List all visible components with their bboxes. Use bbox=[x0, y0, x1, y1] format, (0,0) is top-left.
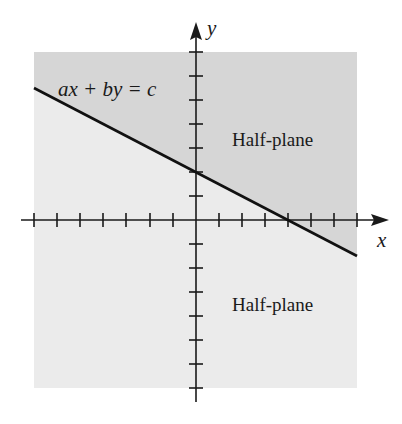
upper-half-plane-label: Half-plane bbox=[232, 129, 313, 150]
lower-half-plane-label: Half-plane bbox=[232, 294, 313, 315]
half-plane-diagram: y x ax + by = c Half-plane Half-plane bbox=[0, 0, 402, 424]
x-axis-label: x bbox=[376, 228, 387, 252]
y-axis-label: y bbox=[205, 16, 217, 40]
equation-label: ax + by = c bbox=[58, 77, 157, 101]
